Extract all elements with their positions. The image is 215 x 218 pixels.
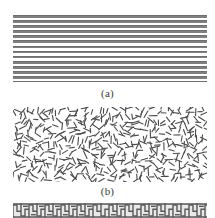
texture-segment <box>181 166 186 169</box>
texture-segment <box>147 143 152 144</box>
texture-segment <box>203 155 207 161</box>
texture-segment <box>178 168 180 173</box>
texture-segment <box>141 158 148 160</box>
texture-segment <box>85 137 87 143</box>
texture-segment <box>154 120 157 124</box>
texture-segment <box>24 111 26 118</box>
texture-segment <box>52 108 53 113</box>
texture-segment <box>64 159 70 160</box>
texture-segment <box>22 160 27 161</box>
texture-segment <box>177 145 182 146</box>
texture-segment <box>186 174 193 175</box>
texture-segment <box>30 149 34 152</box>
texture-segment <box>55 134 59 138</box>
texture-segment <box>161 107 162 109</box>
texture-segment <box>139 143 141 148</box>
texture-segment <box>98 138 102 140</box>
texture-segment <box>158 111 161 114</box>
texture-segment <box>108 180 114 181</box>
texture-segment <box>120 115 122 120</box>
texture-segment <box>41 177 44 181</box>
panel-a-horizontal-stripes <box>13 15 207 82</box>
stripe-texture <box>13 15 207 82</box>
texture-segment <box>183 130 185 136</box>
texture-segment <box>86 167 89 174</box>
texture-segment <box>157 148 158 156</box>
texture-segment <box>29 178 36 182</box>
texture-segment <box>82 139 83 144</box>
texture-segment <box>122 154 126 156</box>
texture-segment <box>72 136 74 144</box>
texture-segment <box>99 179 105 182</box>
texture-segment <box>152 127 155 131</box>
texture-segment <box>179 107 180 110</box>
texture-segment <box>148 168 149 175</box>
texture-segment <box>159 134 164 135</box>
texture-segment <box>62 150 67 153</box>
texture-segment <box>38 107 39 113</box>
texture-segment <box>32 175 38 178</box>
texture-segment <box>103 141 108 142</box>
texture-segment <box>107 108 108 112</box>
texture-segment <box>69 147 74 148</box>
texture-segment <box>92 174 95 178</box>
texture-segment <box>24 145 28 146</box>
texture-segment <box>140 129 148 131</box>
texture-segment <box>185 146 189 147</box>
texture-segment <box>175 173 180 174</box>
caption-b: (b) <box>0 185 215 197</box>
texture-segment <box>59 110 61 114</box>
texture-segment <box>114 152 115 157</box>
texture-segment <box>123 133 130 135</box>
texture-segment <box>48 133 55 134</box>
texture-segment <box>62 123 63 130</box>
texture-segment <box>49 157 54 158</box>
texture-segment <box>136 143 139 149</box>
texture-figure: (a) (b) <box>0 0 215 218</box>
texture-segment <box>39 144 43 149</box>
texture-segment <box>99 125 105 130</box>
texture-segment <box>179 127 181 132</box>
texture-segment <box>156 128 159 132</box>
texture-segment <box>70 163 75 165</box>
texture-segment <box>125 162 131 165</box>
texture-segment <box>56 118 61 123</box>
texture-segment <box>197 153 204 154</box>
meander-maze-texture <box>13 203 207 218</box>
texture-segment <box>50 152 56 153</box>
texture-segment <box>84 151 87 158</box>
texture-segment <box>205 163 207 166</box>
texture-segment <box>156 142 162 143</box>
texture-segment <box>56 159 57 167</box>
texture-segment <box>172 124 176 128</box>
texture-segment <box>141 111 142 117</box>
panel-b-random-segments <box>13 107 207 182</box>
texture-segment <box>108 144 111 148</box>
texture-segment <box>50 135 52 139</box>
caption-a: (a) <box>0 87 215 99</box>
texture-segment <box>193 160 198 163</box>
texture-segment <box>32 146 37 148</box>
random-segment-texture <box>13 107 207 182</box>
texture-segment <box>91 140 98 143</box>
texture-segment <box>109 113 110 120</box>
texture-segment <box>194 142 197 148</box>
texture-segment <box>95 178 96 182</box>
texture-segment <box>89 135 95 137</box>
texture-segment <box>198 117 205 121</box>
texture-segment <box>166 117 169 121</box>
texture-segment <box>98 143 103 149</box>
texture-segment <box>83 175 86 179</box>
texture-segment <box>112 164 116 170</box>
texture-segment <box>78 137 79 144</box>
texture-segment <box>68 128 76 129</box>
texture-segment <box>20 166 25 167</box>
texture-segment <box>91 110 92 115</box>
texture-segment <box>204 128 207 130</box>
texture-segment <box>119 107 125 110</box>
texture-segment <box>161 154 166 156</box>
texture-segment <box>35 133 40 137</box>
texture-segment <box>175 177 178 182</box>
texture-segment <box>69 135 72 142</box>
panel-c-meander-texture <box>13 203 207 218</box>
